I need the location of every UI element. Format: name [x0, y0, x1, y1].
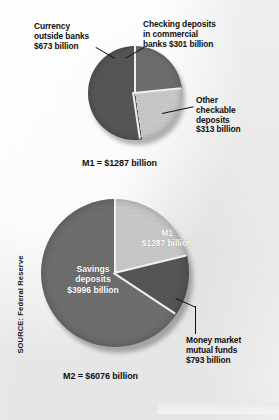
m1-label-other: Other checkable deposits $313 billion [196, 96, 268, 135]
m2-caption: M2 = $6076 billion [63, 371, 138, 381]
m2-leader-mmmf-vertical [195, 306, 196, 334]
m1-label-checking: Checking deposits in commercial banks $3… [143, 20, 239, 49]
m1-label-currency: Currency outside banks $673 billion [34, 22, 120, 51]
m1-pie-body [88, 46, 182, 140]
figure-canvas: Currency outside banks $673 billion Chec… [0, 0, 279, 420]
m1-caption: M1 = $1287 billion [82, 158, 157, 168]
source-note: SOURCE: Federal Reserve [16, 240, 25, 370]
footer-band [158, 402, 279, 414]
m2-label-mmmf: Money market mutual funds $793 billion [186, 336, 276, 365]
m1-pie-chart [88, 46, 184, 142]
m2-inner-label-m1: M1 $1287 billion [130, 228, 204, 248]
m2-inner-label-savings: Savings deposits $3996 billion [45, 264, 141, 295]
